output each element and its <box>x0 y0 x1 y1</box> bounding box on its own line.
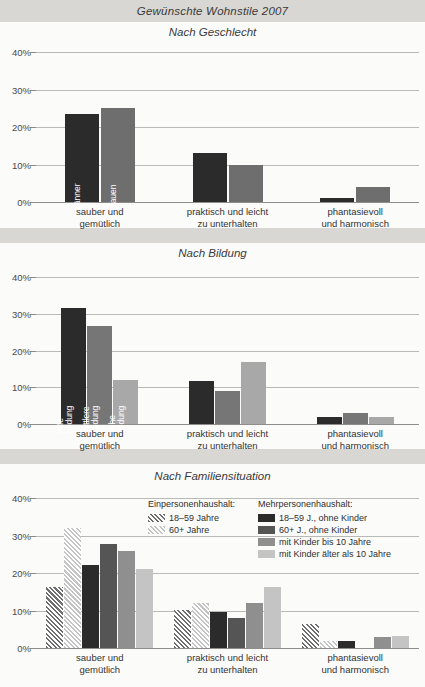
chart-legend: Einpersonenhaushalt:18–59 Jahre60+ Jahre… <box>148 498 421 570</box>
bar-group <box>164 277 292 424</box>
plot-area: 0%10%20%30%40%tiefeBildungmittlereBildun… <box>36 243 419 449</box>
legend-swatch-icon <box>258 550 275 558</box>
bar <box>320 198 354 202</box>
legend-swatch-icon <box>258 526 275 534</box>
category-label-line: phantasievoll <box>291 206 419 218</box>
bar <box>264 587 281 648</box>
bar <box>82 565 99 648</box>
y-axis-tick-label: 30% <box>12 530 31 541</box>
category-label-line: und harmonisch <box>291 440 419 452</box>
legend-item-label: mit Kinder bis 10 Jahre <box>279 536 371 548</box>
bar: hoheBildung <box>113 380 138 424</box>
legend-column-einpersonenhaushalt: Einpersonenhaushalt:18–59 Jahre60+ Jahre <box>148 498 235 536</box>
y-axis-tick-label: 40% <box>12 493 31 504</box>
y-axis-tick-label: 10% <box>12 605 31 616</box>
legend-item[interactable]: 18–59 J., ohne Kinder <box>258 512 391 524</box>
bar <box>302 624 319 648</box>
legend-item[interactable]: mit Kinder bis 10 Jahre <box>258 536 391 548</box>
category-label: sauber undgemütlich <box>36 652 164 675</box>
y-axis-tick-label: 40% <box>12 47 31 58</box>
bar <box>392 636 409 648</box>
category-label: phantasievollund harmonisch <box>291 652 419 675</box>
bar <box>174 610 191 648</box>
bar <box>215 391 240 424</box>
legend-group-heading: Mehrpersonenhaushalt: <box>258 498 391 510</box>
category-label-line: sauber und <box>36 428 164 440</box>
legend-item-label: 18–59 Jahre <box>169 512 219 524</box>
bar <box>100 544 117 648</box>
y-axis-tick-label: 20% <box>12 345 31 356</box>
figure-page: Gewünschte Wohnstile 2007 Nach Geschlech… <box>0 0 425 687</box>
category-label: phantasievollund harmonisch <box>291 206 419 229</box>
bar <box>192 603 209 648</box>
bar <box>338 641 355 648</box>
legend-item[interactable]: mit Kinder älter als 10 Jahre <box>258 548 391 560</box>
legend-column-mehrpersonenhaushalt: Mehrpersonenhaushalt:18–59 J., ohne Kind… <box>258 498 391 560</box>
bar <box>374 637 391 648</box>
legend-swatch-icon <box>258 514 275 522</box>
legend-item-label: 18–59 J., ohne Kinder <box>279 512 367 524</box>
legend-item-label: 60+ J., ohne Kinder <box>279 524 357 536</box>
bar <box>228 618 245 648</box>
bar <box>320 641 337 648</box>
category-label: sauber undgemütlich <box>36 206 164 229</box>
category-label: sauber undgemütlich <box>36 428 164 451</box>
category-label-line: gemütlich <box>36 440 164 452</box>
chart-panel-familiensituation: Nach Familiensituation 0%10%20%30%40% sa… <box>0 464 425 687</box>
category-label: praktisch und leichtzu unterhalten <box>164 206 292 229</box>
category-label-line: phantasievoll <box>291 428 419 440</box>
legend-item[interactable]: 60+ Jahre <box>148 524 235 536</box>
bar-group <box>36 498 164 648</box>
chart-panel-geschlecht: Nach Geschlecht 0%10%20%30%40%MännerFrau… <box>0 22 425 228</box>
category-label-line: praktisch und leicht <box>164 428 292 440</box>
category-axis: sauber undgemütlichpraktisch und leichtz… <box>36 652 419 675</box>
y-axis-tick-label: 30% <box>12 308 31 319</box>
bar: Frauen <box>101 108 135 203</box>
bar-groups: tiefeBildungmittlereBildunghoheBildung <box>36 277 419 424</box>
bar: Männer <box>65 114 99 202</box>
bar <box>369 417 394 424</box>
bar <box>317 417 342 424</box>
bar-group <box>291 52 419 202</box>
bar <box>118 551 135 648</box>
bar <box>246 603 263 648</box>
category-label-line: sauber und <box>36 652 164 664</box>
legend-swatch-icon <box>148 514 165 522</box>
category-label: praktisch und leichtzu unterhalten <box>164 652 292 675</box>
category-label-line: und harmonisch <box>291 218 419 230</box>
plot-area: 0%10%20%30%40%MännerFrauen <box>36 22 419 228</box>
bar <box>46 587 63 649</box>
bar-groups: MännerFrauen <box>36 52 419 202</box>
category-label: praktisch und leichtzu unterhalten <box>164 428 292 451</box>
y-axis-tick-label: 10% <box>12 159 31 170</box>
y-axis-tick-label: 40% <box>12 272 31 283</box>
legend-group-heading: Einpersonenhaushalt: <box>148 498 235 510</box>
category-label-line: praktisch und leicht <box>164 206 292 218</box>
category-label-line: phantasievoll <box>291 652 419 664</box>
category-label-line: zu unterhalten <box>164 440 292 452</box>
category-axis: sauber undgemütlichpraktisch und leichtz… <box>36 428 419 451</box>
y-axis-tick-label: 0% <box>17 643 31 654</box>
category-label-line: gemütlich <box>36 218 164 230</box>
bar <box>343 413 368 424</box>
category-label-line: und harmonisch <box>291 664 419 676</box>
y-axis-tick-label: 20% <box>12 122 31 133</box>
category-label: phantasievollund harmonisch <box>291 428 419 451</box>
category-label-line: praktisch und leicht <box>164 652 292 664</box>
bar <box>193 153 227 202</box>
y-axis-tick-label: 0% <box>17 419 31 430</box>
y-axis-tick-label: 30% <box>12 84 31 95</box>
y-axis-tick-label: 20% <box>12 568 31 579</box>
legend-item[interactable]: 60+ J., ohne Kinder <box>258 524 391 536</box>
bar <box>229 165 263 203</box>
bar <box>241 362 266 424</box>
legend-item[interactable]: 18–59 Jahre <box>148 512 235 524</box>
legend-item-label: 60+ Jahre <box>169 524 209 536</box>
category-label-line: zu unterhalten <box>164 664 292 676</box>
figure-suptitle: Gewünschte Wohnstile 2007 <box>137 5 288 17</box>
bar <box>210 612 227 648</box>
gridline <box>36 202 419 203</box>
chart-panel-bildung: Nach Bildung 0%10%20%30%40%tiefeBildungm… <box>0 243 425 449</box>
figure-suptitle-band: Gewünschte Wohnstile 2007 <box>0 0 425 22</box>
bar-group: MännerFrauen <box>36 52 164 202</box>
